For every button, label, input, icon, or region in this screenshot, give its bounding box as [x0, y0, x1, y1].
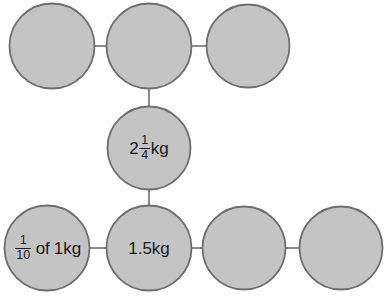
- circle-node-bottom-right[interactable]: [300, 207, 383, 290]
- circle-node-bottom-third[interactable]: [203, 207, 286, 290]
- circle-node-top-left[interactable]: [10, 4, 95, 89]
- circle-node-top-middle[interactable]: [107, 4, 192, 89]
- circle-node-bottom-second[interactable]: [107, 206, 192, 291]
- circle-node-middle-center[interactable]: [108, 107, 191, 190]
- diagram-canvas: [0, 0, 385, 299]
- circle-node-top-right[interactable]: [207, 5, 290, 88]
- circle-chain-diagram: 2 1 4 kg 1 10 of 1kg 1.5kg: [0, 0, 385, 299]
- circle-node-bottom-left[interactable]: [5, 206, 90, 291]
